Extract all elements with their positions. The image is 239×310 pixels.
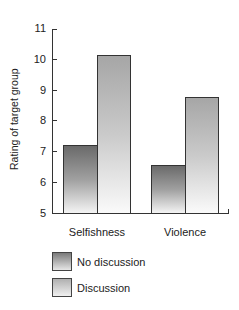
legend-label: Discussion	[77, 282, 130, 295]
y-tick-label: 5	[26, 207, 46, 219]
y-tick-label: 10	[26, 53, 46, 65]
y-tick-label: 9	[26, 84, 46, 96]
y-tick-label: 6	[26, 176, 46, 188]
bar-violence-no-discussion	[151, 165, 186, 213]
x-category-label: Selfishness	[57, 226, 137, 238]
legend-swatch-no-discussion	[52, 252, 72, 271]
bar-selfishness-no-discussion	[63, 145, 98, 213]
y-tick-5	[52, 213, 57, 214]
y-tick-label: 8	[26, 114, 46, 126]
x-axis-line	[52, 213, 229, 214]
y-tick-label: 7	[26, 145, 46, 157]
x-axis-end-tick	[228, 209, 229, 214]
bar-violence-discussion	[185, 97, 219, 213]
y-tick-9	[52, 90, 57, 91]
y-axis-line	[52, 29, 53, 214]
x-category-label: Violence	[145, 226, 225, 238]
y-tick-11	[52, 29, 57, 30]
y-axis-title: Rating of target group	[8, 68, 20, 170]
y-tick-10	[52, 59, 57, 60]
legend-label: No discussion	[77, 256, 145, 269]
y-tick-label: 11	[26, 22, 46, 34]
y-tick-8	[52, 120, 57, 121]
y-tick-7	[52, 151, 57, 152]
bar-selfishness-discussion	[97, 55, 131, 213]
y-tick-6	[52, 182, 57, 183]
legend-swatch-discussion	[52, 278, 72, 297]
